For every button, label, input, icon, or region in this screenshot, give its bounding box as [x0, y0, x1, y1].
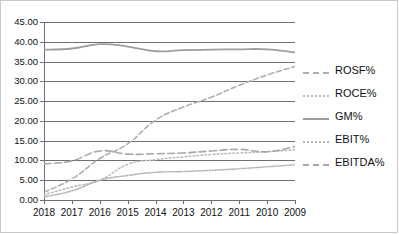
legend-key-icon — [303, 141, 329, 143]
gridline — [44, 200, 295, 201]
legend-label: GM% — [335, 110, 363, 122]
y-tick-label: 15.00 — [0, 136, 38, 145]
legend-item-ebitda[interactable]: EBITDA% — [303, 154, 398, 177]
x-tick-mark — [295, 200, 296, 204]
y-tick-label: 0.00 — [0, 195, 38, 204]
legend-label: EBIT% — [335, 133, 369, 145]
x-tick-mark — [156, 200, 157, 204]
x-tick-mark — [128, 200, 129, 204]
legend-label: EBITDA% — [335, 156, 385, 168]
y-tick-label: 40.00 — [0, 37, 38, 46]
series-lines — [44, 22, 295, 200]
x-tick-mark — [100, 200, 101, 204]
x-tick-mark — [183, 200, 184, 204]
series-line-ebit — [44, 165, 295, 197]
legend-key-icon — [303, 164, 329, 166]
legend-key-icon — [303, 95, 329, 97]
x-tick-mark — [267, 200, 268, 204]
legend-key-icon — [303, 72, 329, 74]
legend-label: ROCE% — [335, 87, 377, 99]
chart-legend: ROSF%ROCE%GM%EBIT%EBITDA% — [303, 62, 398, 177]
y-tick-label: 30.00 — [0, 76, 38, 85]
legend-item-rosf[interactable]: ROSF% — [303, 62, 398, 85]
legend-label: ROSF% — [335, 64, 375, 76]
y-tick-label: 35.00 — [0, 57, 38, 66]
legend-key-icon — [303, 118, 329, 120]
y-tick-label: 10.00 — [0, 155, 38, 164]
y-tick-label: 45.00 — [0, 17, 38, 26]
legend-item-roce[interactable]: ROCE% — [303, 85, 398, 108]
series-line-rosf — [44, 66, 295, 192]
x-tick-mark — [239, 200, 240, 204]
series-line-gm — [44, 44, 295, 52]
series-line-ebitda — [44, 147, 295, 164]
x-tick-mark — [211, 200, 212, 204]
x-tick-label: 2009 — [275, 207, 315, 218]
y-tick-label: 5.00 — [0, 175, 38, 184]
x-tick-mark — [72, 200, 73, 204]
x-tick-mark — [44, 200, 45, 204]
y-tick-label: 25.00 — [0, 96, 38, 105]
legend-item-gm[interactable]: GM% — [303, 108, 398, 131]
y-tick-label: 20.00 — [0, 116, 38, 125]
legend-item-ebit[interactable]: EBIT% — [303, 131, 398, 154]
line-chart: 0.005.0010.0015.0020.0025.0030.0035.0040… — [0, 0, 399, 234]
